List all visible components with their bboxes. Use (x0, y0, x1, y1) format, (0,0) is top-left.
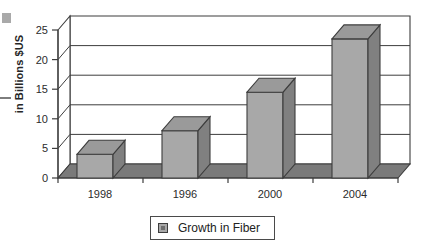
chart-left-wall (58, 16, 70, 178)
y-tick-label-15: 15 (22, 84, 48, 94)
x-tick-label-1998: 1998 (70, 188, 130, 200)
x-tick-label-2004: 2004 (325, 188, 385, 200)
plot-area (0, 0, 425, 250)
bar-1998[interactable] (77, 140, 125, 178)
y-tick-label-0: 0 (22, 173, 48, 183)
bar-2004[interactable] (332, 25, 380, 178)
x-tick-label-1996: 1996 (155, 188, 215, 200)
x-tick-label-2000: 2000 (240, 188, 300, 200)
bar-2000[interactable] (247, 78, 295, 178)
chart-legend: Growth in Fiber (150, 216, 275, 240)
y-tick-label-25: 25 (22, 25, 48, 35)
y-tick-label-5: 5 (22, 143, 48, 153)
legend-label-growth-in-fiber: Growth in Fiber (178, 221, 260, 235)
series-color-swatch-icon (158, 223, 168, 233)
x-axis-line (58, 178, 398, 183)
y-tick-label-10: 10 (22, 114, 48, 124)
y-axis-line (52, 30, 58, 178)
bar-1996[interactable] (162, 117, 210, 178)
bar-chart-figure: in Billions $US (0, 0, 425, 250)
series-color-swatch-core (161, 226, 165, 230)
y-tick-label-20: 20 (22, 55, 48, 65)
